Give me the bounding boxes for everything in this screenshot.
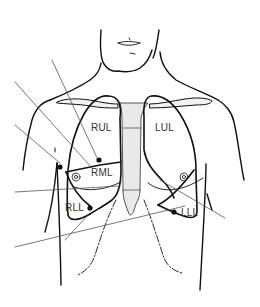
label-rll: RLL — [65, 203, 84, 213]
label-rul: RUL — [91, 123, 112, 133]
left-lung — [144, 96, 197, 218]
label-lul: LUL — [155, 123, 174, 133]
neck-outline — [50, 30, 218, 100]
chest-lung-lobes-figure — [0, 0, 260, 307]
label-lll: LLL — [181, 208, 198, 218]
right-lung — [66, 96, 121, 220]
mouth — [118, 38, 140, 54]
label-rml: RML — [91, 168, 113, 178]
